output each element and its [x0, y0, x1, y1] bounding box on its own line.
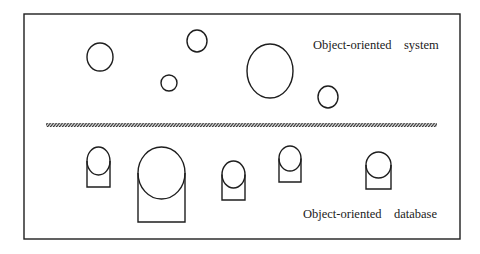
oo-system-vs-database-diagram: Object-oriented system Object-oriented d…	[0, 0, 480, 254]
storage-box	[279, 159, 301, 183]
object-oriented-database-label: Object-oriented database	[303, 207, 437, 221]
system-object-circle-3	[161, 75, 177, 91]
object-circle	[366, 152, 391, 178]
system-object-circle-2	[187, 30, 207, 52]
storage-box	[87, 161, 110, 187]
storage-box	[222, 175, 245, 201]
object-circle	[279, 146, 301, 171]
storage-box	[138, 173, 185, 222]
object-circle	[87, 147, 110, 175]
system-object-circle-4	[247, 44, 293, 98]
system-object-circle-5	[318, 86, 338, 108]
object-oriented-system-label: Object-oriented system	[313, 38, 439, 52]
system-object-circle-1	[87, 43, 113, 71]
stored-object-3	[222, 161, 245, 200]
stored-object-4	[279, 146, 301, 182]
storage-box	[366, 165, 391, 189]
stored-object-2	[138, 147, 185, 222]
stored-object-1	[87, 147, 110, 187]
hatched-separator	[46, 123, 437, 127]
system-objects-group	[87, 30, 338, 108]
stored-object-5	[366, 152, 391, 189]
object-circle	[222, 161, 245, 188]
object-circle	[138, 147, 185, 199]
